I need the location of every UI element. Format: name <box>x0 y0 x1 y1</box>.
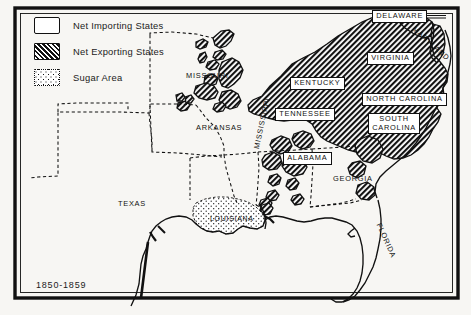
state-label-line: VIRGINIA <box>371 53 409 62</box>
legend-label-net-exporting: Net Exporting States <box>73 46 164 57</box>
state-label-line: NORTH CAROLINA <box>366 94 442 103</box>
legend-label-net-importing: Net Importing States <box>73 20 163 31</box>
state-label-texas: TEXAS <box>118 200 146 209</box>
state-label-line: DELAWARE <box>376 11 423 20</box>
state-label-line: KENTUCKY <box>294 78 340 87</box>
state-label-louisiana: LOUISIANA <box>210 215 254 224</box>
diagonal-hatch-box-icon <box>34 43 60 60</box>
map-legend: Net Importing States Net Exporting State… <box>34 14 164 92</box>
state-label-virginia: VIRGINIA <box>367 52 414 65</box>
state-label-delaware: DELAWARE <box>372 10 427 23</box>
state-label-georgia: GEORGIA <box>333 175 373 184</box>
legend-item-net-importing: Net Importing States <box>34 14 164 36</box>
historical-map: Net Importing States Net Exporting State… <box>0 0 471 315</box>
state-label-line: ALABAMA <box>287 153 327 162</box>
state-label-south-carolina: SOUTHCAROLINA <box>368 113 420 134</box>
state-label-kentucky: KENTUCKY <box>290 77 345 90</box>
legend-item-sugar-area: Sugar Area <box>34 66 164 88</box>
state-label-line: LOUISIANA <box>210 215 254 222</box>
state-label-line: ARKANSAS <box>196 123 242 132</box>
state-label-line: MISSOURI <box>186 71 229 80</box>
state-label-arkansas: ARKANSAS <box>196 124 242 133</box>
state-label-alabama: ALABAMA <box>283 152 332 165</box>
state-label-line: GEORGIA <box>333 174 373 183</box>
stipple-dot-box-icon <box>34 69 60 86</box>
legend-label-sugar-area: Sugar Area <box>73 72 122 83</box>
plain-white-box-icon <box>34 17 60 34</box>
date-range-stamp: 1850-1859 <box>36 280 86 290</box>
state-label-north-carolina: NORTH CAROLINA <box>362 93 447 106</box>
state-label-line: TEXAS <box>118 199 146 208</box>
state-label-line: TENNESSEE <box>279 109 331 118</box>
legend-item-net-exporting: Net Exporting States <box>34 40 164 62</box>
state-label-missouri: MISSOURI <box>186 72 229 81</box>
state-label-tennessee: TENNESSEE <box>275 108 335 121</box>
state-label-line: CAROLINA <box>372 123 416 132</box>
